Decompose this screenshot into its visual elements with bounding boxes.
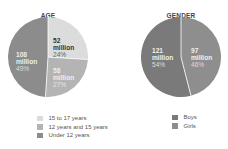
legend-item-under-12: Under 12 years (37, 131, 108, 140)
age-label-under-12: 108 million 49% (16, 51, 37, 73)
gender-label-girls: 97 million 46% (191, 47, 212, 69)
legend-item-girls: Girls (172, 122, 197, 131)
age-label-12-15: 58 million 27% (53, 67, 74, 89)
legend-item-boys: Boys (172, 113, 197, 122)
legend-item-12-15: 12 years and 15 years (37, 123, 108, 132)
gender-label-boys: 121 million 54% (152, 47, 173, 69)
age-label-15-17: 52 million 24% (53, 37, 74, 59)
age-legend: 15 to 17 years 12 years and 15 years Und… (37, 114, 108, 140)
gender-legend: Boys Girls (172, 113, 197, 130)
legend-item-15-17: 15 to 17 years (37, 114, 108, 123)
